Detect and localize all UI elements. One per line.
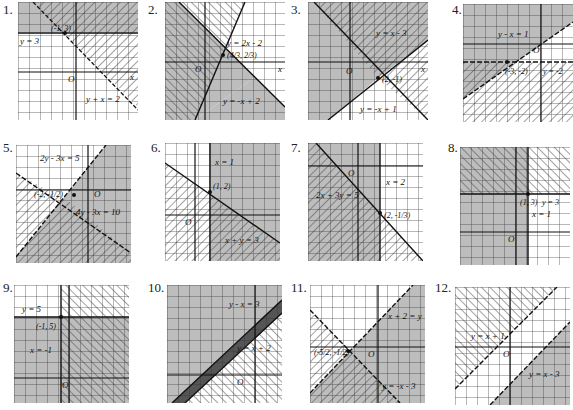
svg-text:O: O bbox=[346, 66, 353, 76]
exercise-number: 10. bbox=[148, 280, 164, 296]
svg-text:y = x + 1: y = x + 1 bbox=[470, 331, 505, 341]
svg-text:(2, -1/3): (2, -1/3) bbox=[384, 211, 411, 220]
svg-text:y = -x - 3: y = -x - 3 bbox=[381, 381, 416, 391]
exercise-6: 6. x = 1 (1, 2) x + y = 3 O bbox=[145, 135, 285, 270]
exercise-number: 4. bbox=[452, 2, 462, 18]
graph-12: y = x + 1 y = x - 3 O bbox=[455, 287, 570, 405]
graph-7: 2x + 3y = 5 x = 2 (2, -1/3) O bbox=[308, 143, 423, 261]
svg-text:O: O bbox=[368, 349, 375, 359]
graph-5: 2y - 3x = 5 (-2, -1/2) 4y - 3x = 10 O bbox=[16, 145, 131, 263]
svg-text:x = 2: x = 2 bbox=[385, 177, 406, 187]
exercise-5: 5. 2y - 3x = 5 (-2, -1/2) 4y - 3x = 10 O bbox=[0, 135, 140, 270]
svg-text:y = x + 2: y = x + 2 bbox=[236, 343, 271, 353]
svg-text:x: x bbox=[420, 64, 425, 74]
exercise-number: 6. bbox=[151, 140, 161, 156]
exercise-9: 9. y = 5 (-1, 5) x = -1 O bbox=[0, 275, 140, 410]
svg-text:(-5/2, -1/2): (-5/2, -1/2) bbox=[314, 348, 349, 357]
svg-text:y = -2: y = -2 bbox=[542, 67, 563, 76]
svg-text:y = 3: y = 3 bbox=[541, 198, 559, 207]
exercise-number: 9. bbox=[3, 280, 13, 296]
svg-text:(1, 3): (1, 3) bbox=[520, 198, 538, 207]
svg-text:4y - 3x = 10: 4y - 3x = 10 bbox=[76, 207, 121, 217]
exercise-11: 11. x + 2 = y (-5/2, -1/2) y = -x - 3 O bbox=[288, 275, 430, 410]
svg-text:O: O bbox=[503, 349, 510, 359]
svg-text:2y - 3x = 5: 2y - 3x = 5 bbox=[40, 153, 80, 163]
svg-text:y = x - 3: y = x - 3 bbox=[375, 28, 407, 38]
svg-text:(-3, -2): (-3, -2) bbox=[505, 67, 528, 76]
svg-text:O: O bbox=[185, 217, 192, 227]
graph-2: y = 2x - 2 (4/3, 2/3) y = -x + 2 O x bbox=[165, 2, 285, 120]
exercise-7: 7. 2x + 3y = 5 x = 2 (2, -1/3) O bbox=[288, 135, 430, 270]
svg-text:(4/3, 2/3): (4/3, 2/3) bbox=[227, 51, 257, 60]
exercise-number: 12. bbox=[435, 280, 451, 296]
svg-text:(1, 2): (1, 2) bbox=[213, 182, 231, 191]
svg-text:O: O bbox=[237, 377, 244, 387]
graph-1: y = 3 (-1, 3) y + x = 2 O x bbox=[18, 2, 138, 120]
svg-text:O: O bbox=[62, 380, 69, 390]
svg-text:y = 5: y = 5 bbox=[21, 304, 42, 314]
exercise-number: 8. bbox=[448, 140, 458, 156]
graph-6: x = 1 (1, 2) x + y = 3 O bbox=[165, 143, 280, 261]
svg-text:(-1, 3): (-1, 3) bbox=[51, 24, 71, 33]
exercise-1: 1. y = 3 (-1, 3) y + x = 2 O x bbox=[0, 0, 140, 125]
svg-text:y = -x + 2: y = -x + 2 bbox=[222, 96, 260, 106]
svg-text:O: O bbox=[348, 168, 355, 178]
exercise-number: 11. bbox=[291, 280, 307, 296]
svg-text:y = 2x - 2: y = 2x - 2 bbox=[226, 38, 263, 48]
svg-text:y = -x + 1: y = -x + 1 bbox=[359, 104, 397, 114]
svg-text:y = 3: y = 3 bbox=[19, 36, 40, 46]
svg-text:(2, -1): (2, -1) bbox=[382, 75, 402, 84]
exercise-number: 1. bbox=[3, 2, 13, 18]
exercise-4: 4. y - x = 1 (-3, -2) y = -2 O bbox=[430, 0, 573, 125]
svg-text:x: x bbox=[129, 72, 134, 82]
svg-text:(-2, -1/2): (-2, -1/2) bbox=[34, 190, 63, 199]
svg-text:x = -1: x = -1 bbox=[29, 345, 52, 355]
exercise-number: 5. bbox=[3, 140, 13, 156]
svg-text:O: O bbox=[195, 64, 202, 74]
svg-text:y + x = 2: y + x = 2 bbox=[85, 94, 120, 104]
graph-4: y - x = 1 (-3, -2) y = -2 O bbox=[463, 4, 573, 122]
svg-text:x = 1: x = 1 bbox=[531, 209, 551, 219]
svg-text:2x + 3y = 5: 2x + 3y = 5 bbox=[316, 190, 359, 200]
exercise-8: 8. (1, 3) y = 3 x = 1 O bbox=[430, 135, 573, 270]
svg-text:y - x = 3: y - x = 3 bbox=[228, 299, 260, 309]
exercise-12: 12. y = x + 1 y = x - 3 O bbox=[430, 275, 573, 410]
exercise-number: 3. bbox=[291, 2, 301, 18]
svg-text:O: O bbox=[94, 189, 101, 199]
svg-text:O: O bbox=[508, 234, 515, 244]
exercise-10: 10. y - x = 3 y = x + 2 O bbox=[145, 275, 285, 410]
graph-11: x + 2 = y (-5/2, -1/2) y = -x - 3 O bbox=[310, 285, 425, 403]
svg-text:O: O bbox=[533, 45, 540, 55]
svg-text:(-1, 5): (-1, 5) bbox=[36, 322, 56, 331]
svg-text:x + y = 3: x + y = 3 bbox=[224, 235, 259, 245]
svg-text:y - x = 1: y - x = 1 bbox=[497, 29, 529, 39]
exercise-number: 7. bbox=[291, 140, 301, 156]
exercise-number: 2. bbox=[148, 2, 158, 18]
svg-text:O: O bbox=[68, 74, 75, 84]
graph-9: y = 5 (-1, 5) x = -1 O bbox=[14, 285, 129, 403]
exercise-3: 3. y = x - 3 (2, -1) y = -x + 1 O x bbox=[288, 0, 430, 125]
graph-3: y = x - 3 (2, -1) y = -x + 1 O x bbox=[308, 2, 428, 120]
svg-text:x + 2 = y: x + 2 = y bbox=[387, 311, 422, 321]
graph-10: y - x = 3 y = x + 2 O bbox=[167, 285, 282, 403]
svg-text:x = 1: x = 1 bbox=[214, 157, 234, 167]
graph-8: (1, 3) y = 3 x = 1 O bbox=[460, 147, 570, 265]
exercise-2: 2. y = 2x - 2 (4/3, 2/3) y = -x + 2 O x bbox=[145, 0, 285, 125]
svg-text:x: x bbox=[277, 64, 282, 74]
svg-text:y = x - 3: y = x - 3 bbox=[528, 369, 560, 379]
